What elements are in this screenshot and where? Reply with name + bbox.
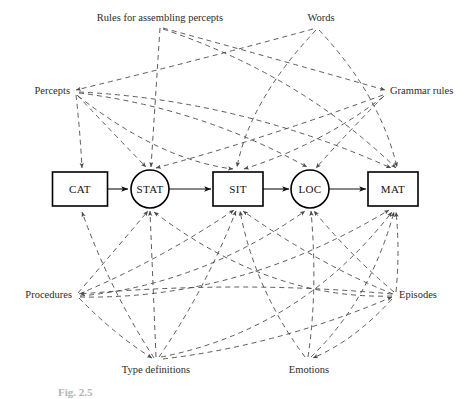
- node-cat-label: CAT: [69, 183, 91, 195]
- dashed-link-rules-grammar: [163, 28, 385, 90]
- node-sit[interactable]: SIT: [213, 172, 263, 206]
- dashed-link-procedures-sit: [79, 210, 234, 294]
- dashed-link-typedef-cat: [82, 212, 154, 358]
- figure-caption: Fig. 2.5: [58, 386, 93, 398]
- dashed-link-percepts-stat: [77, 95, 146, 167]
- label-percepts[interactable]: Percepts: [34, 85, 70, 96]
- dashed-link-procedures-stat: [78, 211, 148, 293]
- node-mat[interactable]: MAT: [368, 172, 418, 206]
- dashed-link-words-mat: [319, 30, 397, 167]
- node-loc[interactable]: LOC: [291, 170, 329, 208]
- label-emotions[interactable]: Emotions: [289, 364, 329, 375]
- dashed-link-episodes-sit: [243, 211, 393, 294]
- node-stat[interactable]: STAT: [131, 170, 169, 208]
- node-mat-label: MAT: [381, 183, 405, 195]
- figure-caption-clip: Fig. 2.5: [0, 386, 472, 399]
- dashed-link-percepts-loc: [79, 93, 307, 167]
- dashed-link-typedef-episodes: [163, 297, 392, 359]
- dashed-link-percepts-cat: [76, 95, 82, 168]
- dashed-link-grammar-loc: [316, 96, 384, 168]
- node-stat-label: STAT: [137, 183, 164, 195]
- dashed-link-procedures-loc: [80, 211, 305, 296]
- dashed-link-procedures-mat: [80, 210, 389, 297]
- dashed-link-emotions-sit: [240, 211, 305, 357]
- dashed-link-episodes-emotions: [313, 299, 392, 358]
- node-sit-label: SIT: [229, 183, 247, 195]
- label-type-definitions[interactable]: Type definitions: [122, 364, 190, 375]
- dashed-link-episodes-mat: [396, 212, 398, 292]
- dashed-link-emotions-mat: [311, 212, 394, 357]
- label-procedures[interactable]: Procedures: [25, 289, 72, 300]
- label-episodes[interactable]: Episodes: [399, 289, 437, 300]
- node-loc-label: LOC: [298, 183, 321, 195]
- dashed-link-rules-stat: [151, 28, 160, 167]
- dashed-link-typedef-sit: [159, 211, 236, 357]
- dashed-link-procedures-typedef: [79, 298, 152, 358]
- node-cat[interactable]: CAT: [53, 172, 108, 206]
- dashed-link-typedef-mat: [161, 212, 392, 357]
- dashed-link-typedef-stat: [150, 211, 156, 357]
- label-grammar-rules[interactable]: Grammar rules: [390, 85, 453, 96]
- dashed-link-grammar-sit: [244, 97, 383, 169]
- dashed-link-emotions-loc: [308, 211, 314, 357]
- dashed-link-episodes-procedures: [80, 287, 392, 294]
- dashed-link-episodes-stat: [154, 212, 392, 296]
- label-words[interactable]: Words: [307, 12, 334, 23]
- diagram-canvas: CAT STAT SIT LOC MAT Rules for assemblin…: [0, 0, 472, 399]
- label-rules-for-assembling-percepts[interactable]: Rules for assembling percepts: [97, 12, 223, 23]
- dashed-link-percepts-sit: [78, 96, 233, 169]
- figure-root: CAT STAT SIT LOC MAT Rules for assemblin…: [0, 0, 472, 399]
- dashed-link-rules-mat: [163, 29, 396, 168]
- dashed-link-words-sit: [237, 30, 316, 167]
- dashed-link-percepts-mat: [79, 92, 391, 168]
